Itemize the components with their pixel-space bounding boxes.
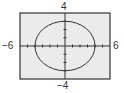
y-min-label: −4 xyxy=(57,81,68,91)
x-min-label: −6 xyxy=(2,41,13,51)
y-max-label: 4 xyxy=(61,2,67,12)
x-max-label: 6 xyxy=(113,41,119,51)
